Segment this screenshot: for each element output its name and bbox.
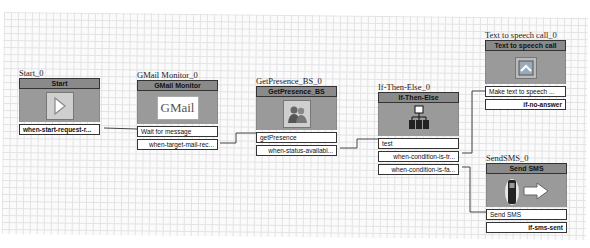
output-port[interactable]: when-target-mail-rec... <box>137 139 218 150</box>
input-port[interactable]: getPresence <box>256 132 337 143</box>
wire-ifelse-true-to-tts <box>462 91 485 153</box>
output-port-true[interactable]: when-condition-is-tr... <box>378 151 459 162</box>
block-body: GMail <box>137 91 218 124</box>
wire-ifelse-false-to-sms <box>462 167 486 212</box>
block-title: GetPresence_BS <box>256 86 337 97</box>
block-getpresence[interactable]: GetPresence_BS_0 GetPresence_BS getPrese… <box>256 86 337 156</box>
block-title: Send SMS <box>486 163 567 174</box>
gmail-logo-icon: GMail <box>157 96 199 120</box>
output-port-false[interactable]: when-condition-is-fa... <box>378 164 459 175</box>
block-instance-label: GMail Monitor_0 <box>137 71 198 80</box>
wire-presence-to-ifelse <box>340 139 378 148</box>
block-title: GMail Monitor <box>137 80 218 91</box>
block-text-to-speech[interactable]: Text to speech call_0 Text to speech cal… <box>485 40 566 110</box>
people-icon <box>283 100 311 128</box>
block-body <box>485 51 566 84</box>
block-gmail-monitor[interactable]: GMail Monitor_0 GMail Monitor GMail Wait… <box>137 80 218 150</box>
mobile-phone-arrow-icon <box>505 176 549 206</box>
block-instance-label: Start_0 <box>19 69 44 78</box>
block-instance-label: If-Then-Else_0 <box>378 83 430 92</box>
block-body <box>19 89 100 122</box>
block-title: Text to speech call <box>485 40 566 51</box>
block-if-then-else[interactable]: If-Then-Else_0 If-Then-Else test when-co… <box>378 92 459 175</box>
wire-gmail-to-presence <box>220 133 256 143</box>
output-port[interactable]: if-no-answer <box>485 99 566 110</box>
block-body <box>378 103 459 136</box>
output-port[interactable]: when-start-request-r... <box>19 124 100 135</box>
block-instance-label: GetPresence_BS_0 <box>256 77 322 86</box>
input-port[interactable]: test <box>378 138 459 149</box>
phone-call-icon <box>515 57 537 79</box>
wire-start-to-gmail <box>104 128 137 129</box>
org-chart-icon <box>408 105 430 135</box>
block-title: If-Then-Else <box>378 92 459 103</box>
output-port[interactable]: when-status-availabl... <box>256 145 337 156</box>
input-port[interactable]: Wait for message <box>137 126 218 137</box>
block-start[interactable]: Start_0 Start when-start-request-r... <box>19 78 100 135</box>
block-body <box>486 174 567 207</box>
input-port[interactable]: Make text to speech ... <box>485 86 566 97</box>
block-body <box>256 97 337 130</box>
output-port[interactable]: if-sms-sent <box>486 222 567 233</box>
block-instance-label: Text to speech call_0 <box>485 31 557 40</box>
block-instance-label: SendSMS_0 <box>486 154 529 163</box>
play-arrow-icon <box>46 92 74 120</box>
block-send-sms[interactable]: SendSMS_0 Send SMS Send SMS if-sms-sent <box>486 163 567 233</box>
input-port[interactable]: Send SMS <box>486 209 567 220</box>
block-title: Start <box>19 78 100 89</box>
